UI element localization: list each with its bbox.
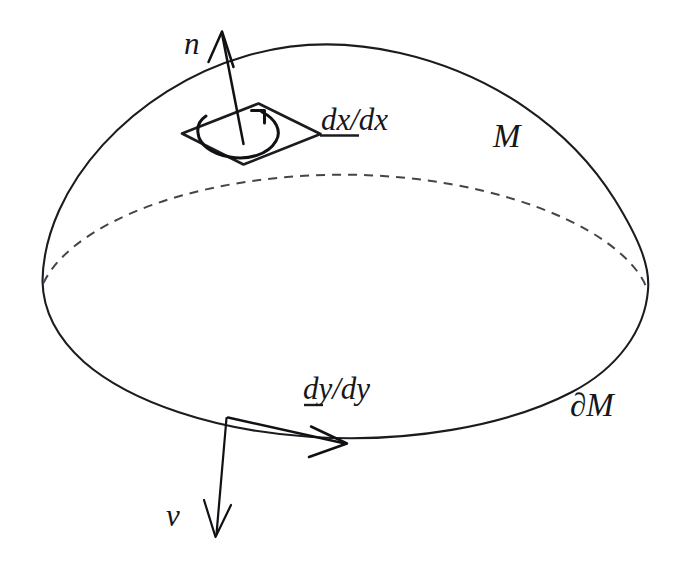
outward-normal-arrow xyxy=(204,418,231,537)
svg-text:dy/dy: dy/dy xyxy=(303,371,370,406)
normal-vector-label: n xyxy=(184,26,200,61)
boundary-hidden-arc xyxy=(44,175,648,291)
surface-element-rest: x/dx xyxy=(336,102,389,137)
boundary-element-rest: y/dy xyxy=(316,371,371,406)
surface-element-label: dx/dx xyxy=(321,102,388,137)
svg-text:dx/dx: dx/dx xyxy=(321,102,388,137)
boundary-element-label: dy/dy xyxy=(303,371,370,406)
surface-element-prefix: d xyxy=(321,102,337,137)
boundary-element-prefix: d xyxy=(303,371,319,406)
manifold-label: M xyxy=(492,118,522,154)
outward-normal-label: ν xyxy=(166,498,180,533)
normal-vector-arrow xyxy=(209,32,244,145)
manifold-diagram: n dx/dx M dy/dy ∂M ν xyxy=(0,0,695,574)
boundary-label: ∂M xyxy=(570,387,615,423)
